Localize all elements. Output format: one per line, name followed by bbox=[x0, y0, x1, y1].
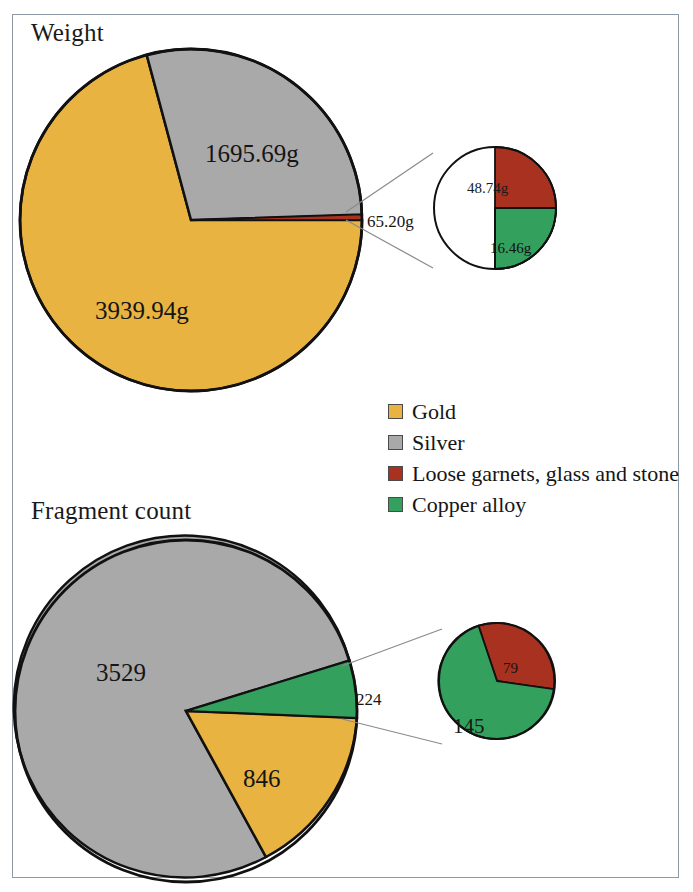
legend-swatch-silver-icon bbox=[388, 435, 403, 450]
legend-item-silver[interactable]: Silver bbox=[388, 427, 678, 458]
legend-swatch-gold-icon bbox=[388, 404, 403, 419]
fragment-detail-pie bbox=[438, 622, 558, 742]
fragment-main-pie bbox=[18, 545, 368, 875]
legend-label-copper: Copper alloy bbox=[412, 494, 526, 516]
weight-leader-line-top bbox=[346, 153, 433, 212]
legend-item-gold[interactable]: Gold bbox=[388, 396, 678, 427]
weight-leader-line-bottom bbox=[346, 220, 433, 268]
legend-swatch-garnets-icon bbox=[388, 466, 403, 481]
legend-label-silver: Silver bbox=[412, 432, 465, 454]
legend-item-garnets[interactable]: Loose garnets, glass and stone bbox=[388, 458, 678, 489]
legend-label-gold: Gold bbox=[412, 401, 456, 423]
legend: Gold Silver Loose garnets, glass and sto… bbox=[388, 396, 678, 520]
legend-item-copper[interactable]: Copper alloy bbox=[388, 489, 678, 520]
fragment-leader-line-top bbox=[342, 629, 442, 666]
legend-label-garnets: Loose garnets, glass and stone bbox=[412, 463, 679, 485]
figure-root: Weight 1695.69g 3939.94g 65.20g 48.74g 1… bbox=[0, 0, 693, 892]
fragment-chart-title: Fragment count bbox=[31, 497, 191, 525]
weight-detail-pie bbox=[432, 145, 562, 275]
fragment-leader-line-bottom bbox=[342, 719, 442, 744]
legend-swatch-copper-icon bbox=[388, 497, 403, 512]
weight-chart-title: Weight bbox=[31, 19, 104, 47]
weight-main-pie bbox=[18, 48, 368, 393]
